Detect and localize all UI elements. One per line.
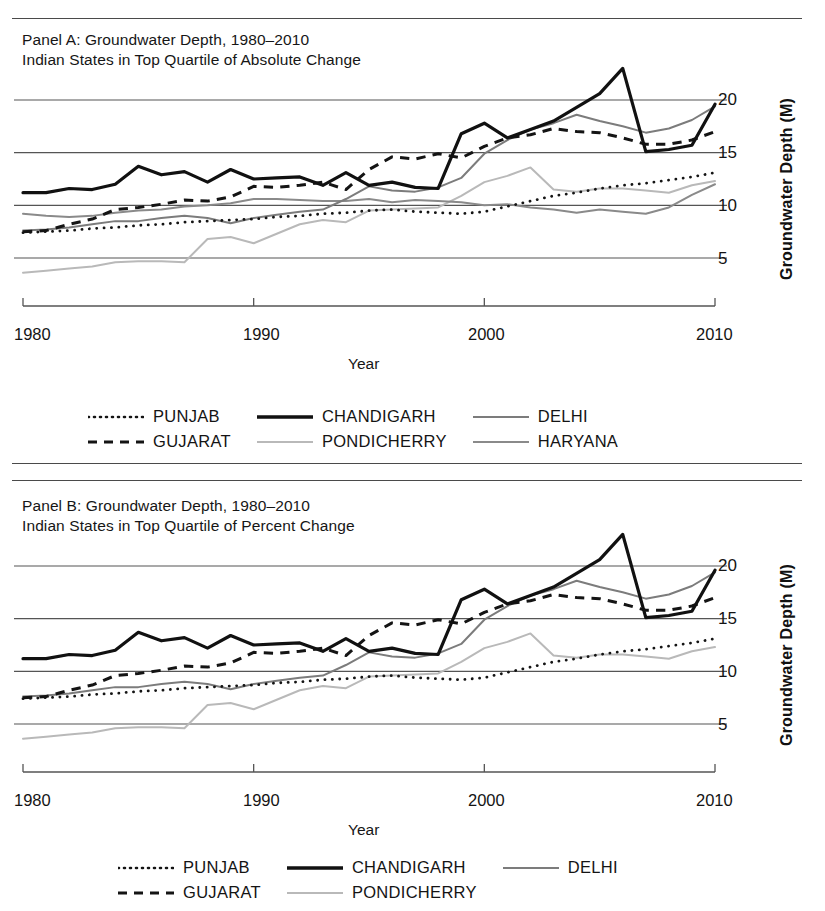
- legend-item-delhi[interactable]: DELHI: [473, 407, 618, 426]
- legend-item-punjab[interactable]: PUNJAB: [118, 858, 261, 877]
- series-line-punjab: [23, 639, 715, 699]
- legend-label-haryana: HARYANA: [538, 432, 618, 451]
- panel-a-x-axis-title: Year: [348, 355, 379, 373]
- series-line-gujarat: [23, 594, 715, 697]
- panel-b-ytick-20: 20: [718, 556, 737, 576]
- panel-b-xtick-2000: 2000: [468, 791, 505, 810]
- legend-item-chandigarh[interactable]: CHANDIGARH: [257, 407, 447, 426]
- legend-swatch-gujarat: [118, 887, 174, 899]
- legend-item-gujarat[interactable]: GUJARAT: [88, 432, 231, 451]
- panel-divider-rule-upper: [12, 463, 802, 464]
- legend-label-pondicherry: PONDICHERRY: [352, 883, 477, 902]
- series-line-punjab: [23, 173, 715, 233]
- legend-swatch-punjab: [118, 862, 174, 874]
- panel-a-svg: [0, 0, 760, 340]
- legend-item-punjab[interactable]: PUNJAB: [88, 407, 231, 426]
- legend-swatch-punjab: [88, 411, 144, 423]
- panel-b-xtick-1980: 1980: [14, 791, 51, 810]
- panel-a: Panel A: Groundwater Depth, 1980–2010 In…: [0, 0, 825, 462]
- legend-item-delhi[interactable]: DELHI: [503, 858, 618, 877]
- legend-item-pondicherry[interactable]: PONDICHERRY: [287, 883, 477, 902]
- panel-a-ytick-10: 10: [718, 196, 737, 216]
- panel-b-ytick-15: 15: [718, 609, 737, 629]
- legend-label-pondicherry: PONDICHERRY: [322, 432, 447, 451]
- panel-b-y-axis-title: Groundwater Depth (M): [778, 564, 796, 746]
- legend-swatch-gujarat: [88, 436, 144, 448]
- series-line-gujarat: [23, 128, 715, 231]
- legend-label-punjab: PUNJAB: [153, 407, 220, 426]
- panel-a-xtick-1990: 1990: [243, 325, 280, 344]
- series-line-chandigarh: [23, 534, 715, 658]
- legend-item-chandigarh[interactable]: CHANDIGARH: [287, 858, 477, 877]
- panel-a-xtick-2000: 2000: [468, 325, 505, 344]
- panel-b: Panel B: Groundwater Depth, 1980–2010 In…: [0, 466, 825, 911]
- panel-a-xtick-1980: 1980: [14, 325, 51, 344]
- panel-b-legend: PUNJAB GUJARAT CHANDIGARH PONDICHERRY DE…: [118, 855, 618, 905]
- panel-a-legend: PUNJAB GUJARAT CHANDIGARH PONDICHERRY DE…: [88, 404, 618, 454]
- panel-b-svg: [0, 466, 760, 806]
- legend-swatch-chandigarh: [257, 411, 313, 423]
- series-line-chandigarh: [23, 68, 715, 192]
- panel-b-ytick-10: 10: [718, 662, 737, 682]
- legend-swatch-delhi: [503, 862, 559, 874]
- panel-a-ytick-20: 20: [718, 90, 737, 110]
- panel-a-y-axis-title: Groundwater Depth (M): [778, 98, 796, 280]
- legend-item-haryana[interactable]: HARYANA: [473, 432, 618, 451]
- panel-b-xtick-1990: 1990: [243, 791, 280, 810]
- panel-b-xtick-2010: 2010: [696, 791, 733, 810]
- legend-swatch-chandigarh: [287, 862, 343, 874]
- panel-a-ytick-5: 5: [718, 249, 727, 269]
- legend-label-delhi: DELHI: [568, 858, 618, 877]
- legend-label-punjab: PUNJAB: [183, 858, 250, 877]
- panel-b-x-axis-title: Year: [348, 821, 379, 839]
- legend-label-chandigarh: CHANDIGARH: [322, 407, 436, 426]
- legend-item-gujarat[interactable]: GUJARAT: [118, 883, 261, 902]
- legend-swatch-pondicherry: [257, 436, 313, 448]
- panel-a-xtick-2010: 2010: [696, 325, 733, 344]
- legend-swatch-pondicherry: [287, 887, 343, 899]
- legend-item-pondicherry[interactable]: PONDICHERRY: [257, 432, 447, 451]
- figure-groundwater-depth-panels: Panel A: Groundwater Depth, 1980–2010 In…: [0, 0, 825, 911]
- legend-swatch-haryana: [473, 436, 529, 448]
- panel-b-ytick-5: 5: [718, 715, 727, 735]
- legend-swatch-delhi: [473, 411, 529, 423]
- legend-label-chandigarh: CHANDIGARH: [352, 858, 466, 877]
- legend-label-delhi: DELHI: [538, 407, 588, 426]
- series-line-pondicherry: [23, 633, 715, 738]
- panel-b-plot: [0, 466, 760, 806]
- panel-a-ytick-15: 15: [718, 143, 737, 163]
- series-line-pondicherry: [23, 167, 715, 272]
- legend-label-gujarat: GUJARAT: [183, 883, 261, 902]
- panel-a-plot: [0, 0, 760, 340]
- legend-label-gujarat: GUJARAT: [153, 432, 231, 451]
